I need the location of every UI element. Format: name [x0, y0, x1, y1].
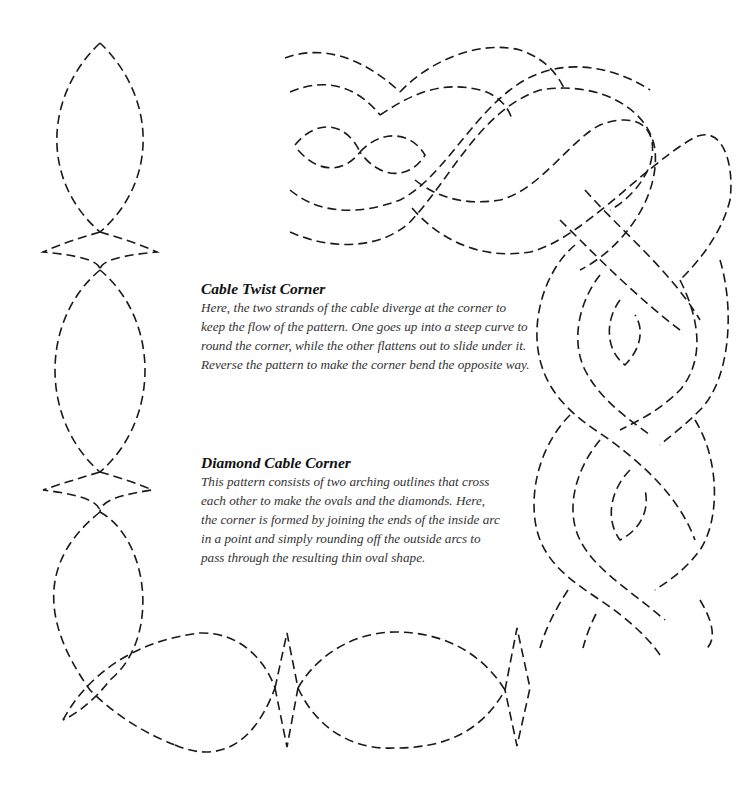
cable-twist-description: Here, the two strands of the cable diver… — [201, 298, 531, 374]
diamond-cable-caption: Diamond Cable Corner This pattern consis… — [201, 454, 501, 567]
diamond-cable-title: Diamond Cable Corner — [201, 454, 501, 472]
quilting-pattern-page: Cable Twist Corner Here, the two strands… — [0, 0, 753, 787]
cable-twist-title: Cable Twist Corner — [201, 280, 531, 298]
cable-twist-caption: Cable Twist Corner Here, the two strands… — [201, 280, 531, 374]
diamond-cable-corner-figure — [0, 0, 753, 787]
diamond-cable-description: This pattern consists of two arching out… — [201, 472, 501, 567]
